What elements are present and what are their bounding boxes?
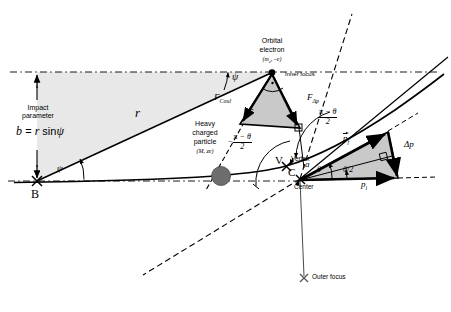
figure-canvas: Impact parameter b = r sinψ B ψ r r ψ Or… [0,0,451,312]
angle-expression-right: π − θ 2 [318,108,337,127]
f-dp-subscript: Δp [313,98,319,104]
point-c-label: C [288,167,295,179]
angle-expression-left: − π − θ 2 [228,133,252,152]
heavy-particle-sublabel: (M, ze) [176,148,234,154]
force-coulomb-label: FCoul [214,93,231,104]
point-b-label: B [31,188,39,201]
impact-parameter-formula: b = r sinψ [10,122,70,139]
impact-parameter-label-line2: parameter [9,112,67,119]
heavy-particle-label-line3: particle [176,138,234,145]
orbital-electron-label-line1: Orbital [236,37,308,44]
formula-psi: ψ [56,124,63,138]
p-initial-symbol: p [361,180,366,189]
formula-sin: sin [39,125,56,137]
formula-equals: = [22,125,35,137]
asymptote-dashed-lower-left [143,179,300,275]
angle-left-denominator: 2 [233,143,252,152]
p-final-label: pf [343,134,349,145]
center-label: Center [294,184,314,191]
inner-focus-label: Inner focus [285,71,315,77]
psi-label-at-b: ψ [57,164,63,173]
center-to-outer-focus-line [300,180,304,276]
oe-sub-rest: , –e) [271,56,282,62]
p-initial-label: pi [361,180,367,191]
angle-right-denominator: 2 [318,118,337,127]
delta-p-label: Δp [404,140,414,149]
point-v-label: V [275,155,283,167]
orbital-electron-sublabel: (me, –e) [236,56,308,64]
impact-parameter-label-line1: Impact [9,104,67,111]
r-label-long: r [135,106,140,120]
p-final-symbol: p [343,134,348,143]
heavy-particle-label-line1: Heavy [176,120,234,127]
diagram-svg [0,0,451,312]
orbital-electron-dot [269,69,276,76]
semi-axis-a-label: a [305,160,310,169]
heavy-charged-particle-dot [212,167,231,186]
orbital-electron-label-line2: electron [236,46,308,53]
delta-p-symbol: Δp [404,139,414,149]
psi-label-at-electron: ψ [232,72,238,83]
force-delta-p-label: FΔp [307,93,319,104]
r-label-dashed: r [248,104,253,118]
theta-half-label: θ/2 [343,166,353,174]
f-coul-subscript: Coul [220,98,232,104]
outer-focus-label: Outer focus [312,274,346,281]
theta-label: θ [317,166,321,174]
heavy-particle-label-line2: charged [176,129,234,136]
